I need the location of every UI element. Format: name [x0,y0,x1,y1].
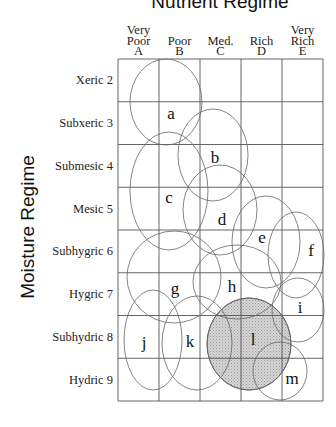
zone-label-l: l [251,330,256,349]
zone-label-g: g [171,279,180,298]
column-header-e: E [299,44,307,58]
zone-label-i: i [298,298,303,317]
zone-label-k: k [186,332,195,351]
zone-label-a: a [167,104,175,123]
row-labels: Xeric 2Subxeric 3Submesic 4Mesic 5Subhyg… [52,73,114,386]
row-label-7: Hygric 7 [69,287,113,301]
column-header-c: C [216,44,224,58]
shaded-zone-layer [207,298,291,390]
zone-label-h: h [228,277,237,296]
y-axis-label: Moisture Regime [17,155,38,299]
zone-label-j: j [141,333,147,352]
zone-label-b: b [211,148,220,167]
row-label-4: Submesic 4 [55,159,114,173]
chart-title: Nutrient Regime [151,0,288,12]
row-label-3: Subxeric 3 [59,116,113,130]
edatopic-grid-diagram: Nutrient Regime Moisture Regime VeryPoor… [0,0,336,427]
zone-ellipse-j [124,290,182,390]
row-label-6: Subhygric 6 [52,244,113,258]
zone-label-f: f [308,241,314,260]
zone-ellipse-e [232,196,300,288]
zone-label-d: d [218,210,227,229]
row-label-9: Hydric 9 [69,373,113,387]
row-label-5: Mesic 5 [73,202,113,216]
zone-label-m: m [285,369,298,388]
column-header-d: D [257,44,266,58]
zone-ellipse-l-shaded [207,298,291,390]
column-header-b: B [175,44,183,58]
row-label-8: Subhydric 8 [52,330,113,344]
zone-label-e: e [258,228,266,247]
row-label-2: Xeric 2 [76,73,113,87]
zone-ellipse-f [268,212,324,298]
column-headers: VeryPoorAPoorBMed.CRichDVeryRichE [127,23,315,58]
zone-label-c: c [165,188,173,207]
column-header-a: A [134,44,143,58]
